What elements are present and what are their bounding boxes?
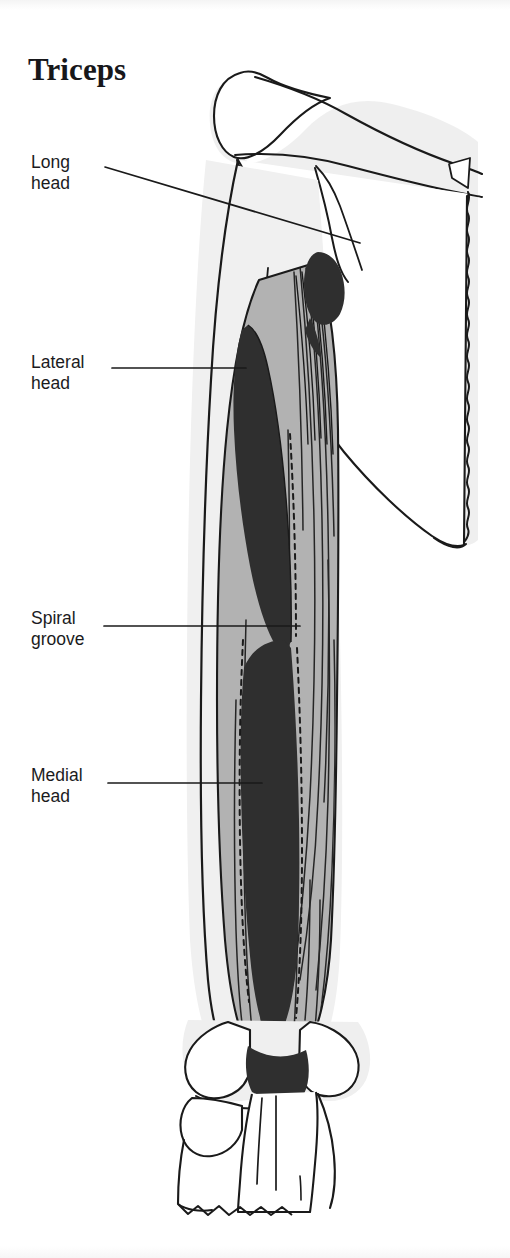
forearm-lateral-outline (318, 1094, 335, 1208)
figure-canvas: Triceps Long head Lateral head Spiral gr… (0, 0, 510, 1258)
elbow-group (178, 1020, 370, 1215)
label-medial-head: Medial head (31, 765, 83, 807)
figure-title: Triceps (28, 52, 126, 88)
radius-head (180, 1098, 242, 1156)
ulna-shaft (238, 1092, 318, 1212)
label-long-head: Long head (31, 152, 70, 194)
label-lateral-head: Lateral head (31, 352, 85, 394)
scan-artifact-bottom (0, 1246, 510, 1258)
label-spiral-groove: Spiral groove (31, 608, 85, 650)
